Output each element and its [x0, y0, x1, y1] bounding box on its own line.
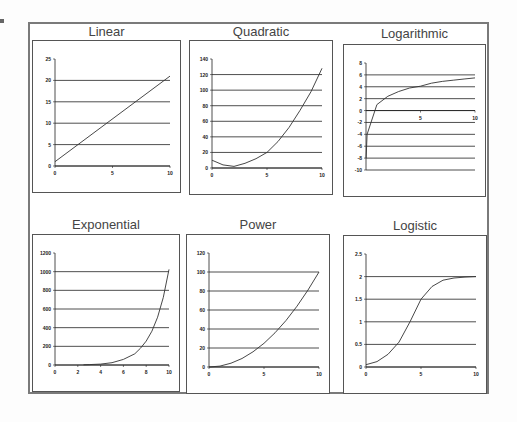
svg-text:2: 2 — [359, 96, 362, 102]
svg-text:2: 2 — [359, 274, 362, 280]
svg-text:2: 2 — [76, 369, 79, 375]
svg-text:40: 40 — [199, 326, 205, 332]
svg-text:2.5: 2.5 — [355, 251, 362, 257]
svg-text:10: 10 — [166, 369, 172, 375]
logistic-chart-title: Logistic — [343, 218, 487, 233]
svg-text:10: 10 — [45, 120, 51, 126]
svg-text:8: 8 — [145, 369, 148, 375]
logarithmic-chart-title: Logarithmic — [343, 26, 486, 41]
svg-text:0: 0 — [54, 369, 57, 375]
exponential-chart-plot: 0200400600800100012000246810 — [33, 235, 181, 393]
svg-text:10: 10 — [472, 115, 478, 121]
quadratic-series-line — [212, 68, 322, 166]
svg-text:120: 120 — [197, 250, 206, 256]
power-chart-plot: 0204060801001200510 — [187, 235, 331, 395]
svg-text:10: 10 — [167, 170, 173, 176]
svg-text:0: 0 — [211, 172, 214, 178]
svg-text:400: 400 — [43, 325, 52, 331]
svg-text:20: 20 — [199, 345, 205, 351]
logarithmic-chart-plot: -10-8-6-4-202468510 — [344, 45, 487, 198]
svg-text:-8: -8 — [358, 155, 363, 161]
power-chart-title: Power — [186, 217, 330, 232]
svg-text:8: 8 — [359, 60, 362, 66]
svg-text:6: 6 — [122, 369, 125, 375]
svg-text:0: 0 — [205, 165, 208, 171]
svg-text:15: 15 — [45, 99, 51, 105]
svg-text:-2: -2 — [358, 119, 363, 125]
exponential-chart-title: Exponential — [32, 217, 180, 232]
svg-text:1000: 1000 — [40, 269, 51, 275]
svg-text:10: 10 — [319, 172, 325, 178]
svg-text:5: 5 — [266, 172, 269, 178]
linear-series-line — [55, 76, 170, 162]
svg-text:100: 100 — [197, 269, 206, 275]
svg-text:0: 0 — [48, 163, 51, 169]
svg-text:200: 200 — [43, 343, 52, 349]
svg-text:6: 6 — [359, 72, 362, 78]
svg-text:1200: 1200 — [40, 250, 51, 256]
svg-text:800: 800 — [43, 287, 52, 293]
svg-text:-4: -4 — [358, 131, 363, 137]
svg-text:5: 5 — [111, 170, 114, 176]
svg-text:80: 80 — [199, 288, 205, 294]
svg-text:25: 25 — [45, 56, 51, 62]
svg-text:20: 20 — [45, 77, 51, 83]
svg-text:5: 5 — [420, 371, 423, 377]
svg-text:80: 80 — [202, 103, 208, 109]
svg-text:-10: -10 — [355, 167, 362, 173]
svg-text:1: 1 — [359, 319, 362, 325]
power-series-line — [209, 272, 319, 367]
quadratic-chart-panel: 0204060801001201400510 — [189, 40, 333, 195]
svg-text:20: 20 — [202, 149, 208, 155]
svg-text:0.5: 0.5 — [355, 341, 362, 347]
svg-text:5: 5 — [419, 115, 422, 121]
linear-chart-plot: 05101520250510 — [33, 41, 182, 194]
svg-text:0: 0 — [202, 364, 205, 370]
svg-text:0: 0 — [359, 364, 362, 370]
svg-text:0: 0 — [48, 362, 51, 368]
svg-text:-6: -6 — [358, 143, 363, 149]
corner-marker — [0, 19, 4, 23]
svg-text:5: 5 — [48, 142, 51, 148]
power-chart-panel: 0204060801001200510 — [186, 234, 330, 394]
svg-text:0: 0 — [208, 371, 211, 377]
svg-text:0: 0 — [359, 108, 362, 114]
svg-text:40: 40 — [202, 134, 208, 140]
svg-text:600: 600 — [43, 306, 52, 312]
svg-text:4: 4 — [99, 369, 102, 375]
linear-chart-title: Linear — [32, 24, 181, 39]
svg-text:1.5: 1.5 — [355, 296, 362, 302]
svg-text:0: 0 — [365, 371, 368, 377]
quadratic-chart-title: Quadratic — [189, 24, 333, 39]
exponential-chart-panel: 0200400600800100012000246810 — [32, 234, 180, 392]
exponential-series-line — [84, 269, 170, 364]
svg-text:140: 140 — [200, 56, 209, 62]
logarithmic-chart-panel: -10-8-6-4-202468510 — [343, 44, 486, 197]
svg-text:10: 10 — [316, 371, 322, 377]
quadratic-chart-plot: 0204060801001201400510 — [190, 41, 334, 196]
svg-text:60: 60 — [199, 307, 205, 313]
logistic-chart-plot: 00.511.522.50510 — [344, 236, 488, 395]
svg-text:60: 60 — [202, 118, 208, 124]
logistic-chart-panel: 00.511.522.50510 — [343, 235, 487, 394]
svg-text:0: 0 — [54, 170, 57, 176]
linear-chart-panel: 05101520250510 — [32, 40, 181, 193]
svg-text:120: 120 — [200, 72, 209, 78]
svg-text:5: 5 — [263, 371, 266, 377]
logistic-series-line — [366, 277, 476, 365]
svg-text:100: 100 — [200, 87, 209, 93]
svg-text:10: 10 — [473, 371, 479, 377]
svg-text:4: 4 — [359, 84, 362, 90]
